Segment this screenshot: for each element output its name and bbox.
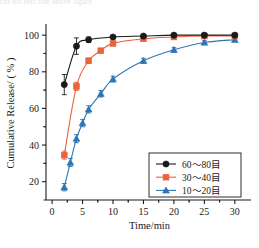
data-point-marker: [74, 84, 80, 90]
chart-plot-area: 20406080100051015202530Time/minCumulativ…: [0, 11, 259, 248]
x-tick-label: 15: [138, 206, 148, 217]
dissolution-line-chart: 20406080100051015202530Time/minCumulativ…: [0, 11, 259, 248]
legend-label-3: 10～20目: [182, 186, 221, 196]
data-point-marker: [86, 58, 92, 64]
y-tick-label: 100: [24, 30, 39, 41]
x-tick-label: 25: [199, 206, 209, 217]
data-point-marker: [61, 82, 67, 88]
data-point-marker: [163, 174, 169, 180]
data-point-marker: [67, 159, 74, 165]
data-point-marker: [61, 184, 68, 190]
y-tick-label: 40: [29, 140, 39, 151]
data-point-marker: [201, 32, 207, 38]
data-point-marker: [140, 33, 146, 39]
data-point-marker: [79, 120, 86, 126]
data-point-marker: [61, 152, 67, 158]
x-tick-label: 30: [230, 206, 240, 217]
data-point-marker: [73, 135, 80, 141]
axes-group: 20406080100051015202530Time/minCumulativ…: [5, 24, 251, 231]
y-tick-label: 20: [29, 176, 39, 187]
y-tick-label: 80: [29, 66, 39, 77]
data-point-marker: [86, 37, 92, 43]
y-axis-title: Cumulative Release/ ( % ): [5, 57, 17, 168]
data-point-marker: [98, 48, 104, 54]
x-tick-label: 20: [169, 206, 179, 217]
data-point-marker: [110, 34, 116, 40]
x-tick-label: 5: [80, 206, 85, 217]
legend-label-1: 60～80目: [182, 160, 221, 170]
data-point-marker: [110, 41, 116, 47]
data-point-marker: [73, 43, 79, 49]
x-tick-label: 0: [50, 206, 55, 217]
data-point-marker: [163, 161, 169, 167]
legend-label-2: 30～40目: [182, 173, 221, 183]
figure-container: cut-off text line above figure 204060801…: [0, 0, 259, 248]
data-point-marker: [171, 32, 177, 38]
chart-legend: 60～80目30～40目10～20目: [149, 153, 241, 197]
caption-strip-text: cut-off text line above figure: [0, 0, 92, 6]
data-point-marker: [232, 32, 238, 38]
x-axis-title: Time/min: [129, 220, 171, 231]
y-tick-label: 60: [29, 103, 39, 114]
series-line: [64, 36, 235, 155]
data-point-marker: [85, 106, 92, 112]
caption-strip-cutoff: cut-off text line above figure: [0, 0, 259, 7]
x-tick-label: 10: [108, 206, 118, 217]
series-square: [61, 33, 237, 159]
